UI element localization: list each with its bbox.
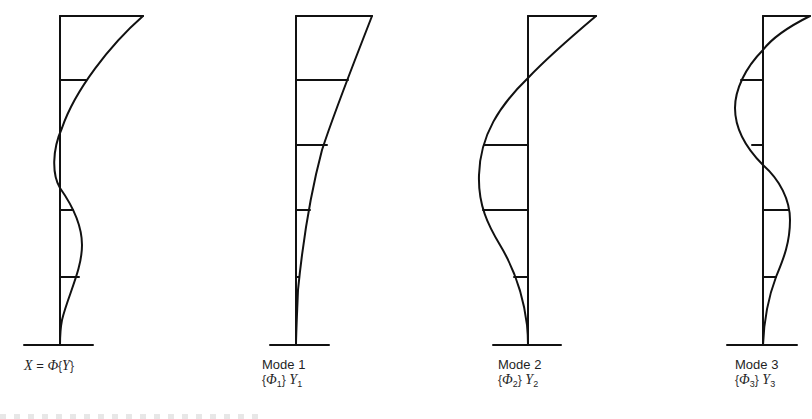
phi-symbol: Φ [502,372,513,387]
truncated-caption-edge [0,414,260,419]
panel-mode-1 [270,16,372,345]
mode-title: Mode 2 [498,357,541,372]
label-var-y: Y [62,358,70,373]
panel-mode-3 [727,16,810,345]
panel-total-displacement [24,16,143,345]
y-subscript: 3 [770,379,775,389]
mode-formula: {Φ2} Y2 [498,372,541,392]
brace-close: } [755,373,759,387]
label-phi: Φ [47,358,58,373]
y-subscript: 2 [533,379,538,389]
mode-formula: {Φ3} Y3 [735,372,778,392]
mode-title: Mode 3 [735,357,778,372]
y-symbol: Y [525,372,533,387]
y-symbol: Y [762,372,770,387]
phi-symbol: Φ [266,372,277,387]
label-mode-1: Mode 1 {Φ1} Y1 [262,357,305,392]
phi-symbol: Φ [739,372,750,387]
brace-close: } [282,373,286,387]
label-total-displacement: X = Φ{Y} [24,358,74,374]
y-symbol: Y [289,372,297,387]
panel-mode-2 [479,16,596,345]
mode-shape-curve [479,16,596,345]
deflected-shape-curve [54,16,143,345]
mode-shapes-diagram [0,0,812,419]
label-mode-3: Mode 3 {Φ3} Y3 [735,357,778,392]
mode-formula: {Φ1} Y1 [262,372,305,392]
brace-close: } [518,373,522,387]
label-mode-2: Mode 2 {Φ2} Y2 [498,357,541,392]
mode-shape-curve [296,16,372,345]
y-subscript: 1 [297,379,302,389]
label-equals: = [36,358,44,373]
label-brace-close: } [70,359,74,373]
mode-shape-curve [735,16,810,345]
label-var-x: X [24,358,33,373]
mode-title: Mode 1 [262,357,305,372]
